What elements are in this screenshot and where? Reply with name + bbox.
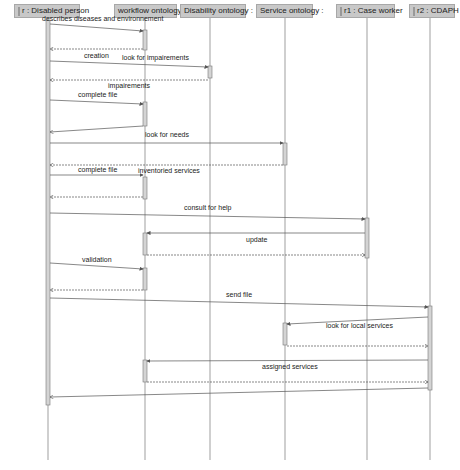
message-label: impairements xyxy=(108,82,150,89)
msg-assigned-services xyxy=(147,360,428,361)
message-label: inventoried services xyxy=(138,167,200,174)
activation-workflow-1 xyxy=(143,30,147,50)
lifeline-label: r2 : CDAPH xyxy=(417,5,459,17)
msg-return-2 xyxy=(50,126,143,132)
activation-case-worker xyxy=(365,218,369,258)
message-label: look for local services xyxy=(326,322,393,329)
msg-describes xyxy=(50,24,143,31)
activation-workflow-5 xyxy=(143,268,147,290)
lifeline-header-service-ontology[interactable]: Service ontology : xyxy=(256,4,313,18)
message-label: look for needs xyxy=(145,131,189,138)
activation-disability xyxy=(208,66,212,78)
message-label: send file xyxy=(226,291,252,298)
sequence-diagram xyxy=(0,0,460,470)
activations xyxy=(46,20,432,405)
message-label: validation xyxy=(82,256,112,263)
actor-icon xyxy=(413,7,415,16)
msg-send-file xyxy=(50,298,428,307)
lifelines xyxy=(48,18,430,460)
message-label: complete file xyxy=(78,91,117,98)
message-label: creation xyxy=(84,52,109,59)
message-label: look for impairements xyxy=(122,54,189,61)
actor-icon xyxy=(18,7,20,16)
activation-workflow-6 xyxy=(143,360,147,382)
activation-workflow-4 xyxy=(143,233,147,255)
messages xyxy=(50,24,428,397)
lifeline-header-cdaph[interactable]: r2 : CDAPH xyxy=(409,4,455,18)
message-label: update xyxy=(246,236,267,243)
activation-disabled-person xyxy=(46,20,50,405)
activation-workflow-2 xyxy=(143,102,147,126)
message-label: complete file xyxy=(78,166,117,173)
lifeline-header-case-worker[interactable]: r1 : Case worker xyxy=(336,4,395,18)
message-label: consult for help xyxy=(184,204,231,211)
lifeline-header-disability-ontology[interactable]: Disability ontology : xyxy=(180,4,246,18)
lifeline-label: Disability ontology : xyxy=(184,5,253,17)
lifeline-label: r1 : Case worker xyxy=(344,5,403,17)
msg-look-impairements xyxy=(50,61,208,67)
activation-service-2 xyxy=(283,323,287,345)
message-label: assigned services xyxy=(262,363,318,370)
msg-validation xyxy=(50,263,143,269)
message-label: describes diseases and environnement xyxy=(42,15,163,22)
actor-icon xyxy=(340,7,342,16)
lifeline-label: Service ontology : xyxy=(260,5,324,17)
activation-service-1 xyxy=(283,143,287,165)
activation-workflow-3 xyxy=(143,177,147,199)
msg-return-final xyxy=(50,388,428,397)
activation-cdaph xyxy=(428,306,432,390)
msg-consult-help xyxy=(50,213,365,219)
msg-complete-file-1 xyxy=(50,100,143,104)
